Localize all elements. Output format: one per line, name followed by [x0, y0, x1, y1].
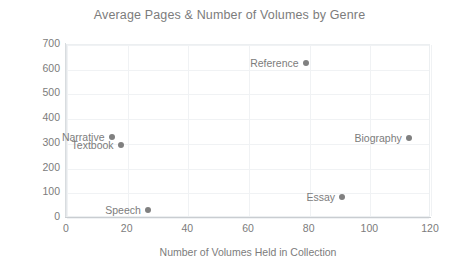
chart-title: Average Pages & Number of Volumes by Gen… — [0, 8, 459, 22]
gridline-horizontal — [67, 193, 429, 194]
data-point[interactable] — [303, 60, 309, 66]
plot-area — [66, 44, 430, 217]
gridline-horizontal — [67, 45, 429, 46]
x-tick-label: 60 — [228, 222, 268, 234]
y-tick-label: 700 — [30, 38, 60, 49]
gridline-horizontal — [67, 218, 429, 219]
x-tick-label: 0 — [46, 222, 86, 234]
data-point[interactable] — [118, 142, 124, 148]
gridline-horizontal — [67, 94, 429, 95]
y-tick-label: 0 — [30, 211, 60, 222]
x-tick-label: 120 — [410, 222, 450, 234]
gridline-vertical — [249, 45, 250, 216]
y-tick-label: 600 — [30, 63, 60, 74]
y-tick-label: 500 — [30, 87, 60, 98]
y-tick-label: 200 — [30, 162, 60, 173]
gridline-vertical — [370, 45, 371, 216]
gridline-vertical — [431, 45, 432, 216]
x-tick-label: 100 — [349, 222, 389, 234]
x-tick-label: 20 — [107, 222, 147, 234]
x-tick-label: 80 — [289, 222, 329, 234]
data-point-label: Reference — [250, 57, 298, 69]
data-point-label: Biography — [354, 132, 401, 144]
gridline-horizontal — [67, 119, 429, 120]
y-tick-label: 100 — [30, 186, 60, 197]
data-point-label: Textbook — [72, 139, 114, 151]
data-point[interactable] — [406, 135, 412, 141]
data-point[interactable] — [145, 207, 151, 213]
gridline-vertical — [128, 45, 129, 216]
x-axis-title: Number of Volumes Held in Collection — [66, 246, 430, 258]
gridline-horizontal — [67, 70, 429, 71]
gridline-horizontal — [67, 169, 429, 170]
data-point-label: Essay — [306, 191, 335, 203]
x-tick-label: 40 — [167, 222, 207, 234]
y-tick-label: 400 — [30, 112, 60, 123]
gridline-vertical — [188, 45, 189, 216]
data-point-label: Speech — [105, 204, 141, 216]
y-tick-label: 300 — [30, 137, 60, 148]
scatter-chart: Average Pages & Number of Volumes by Gen… — [0, 0, 459, 269]
